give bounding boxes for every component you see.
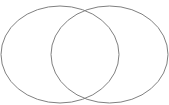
left-set-ellipse — [1, 6, 119, 103]
venn-diagram — [0, 0, 169, 105]
right-set-ellipse — [51, 6, 168, 103]
